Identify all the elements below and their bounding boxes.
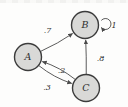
edge-label-A-C: .3 <box>43 83 51 92</box>
diagram-svg: .71.8.2.3ABC <box>0 0 128 107</box>
edge-label-C-B: .8 <box>97 54 105 63</box>
node-label-B: B <box>81 19 89 30</box>
state-diagram-figure: .71.8.2.3ABC <box>0 0 128 107</box>
node-label-C: C <box>82 82 90 93</box>
edge-label-A-B: .7 <box>44 26 53 35</box>
edge-label-B-B: 1 <box>111 21 116 30</box>
edge-label-C-A: .2 <box>58 66 66 75</box>
edge-A-B <box>41 34 73 52</box>
edge-B-B <box>101 19 111 30</box>
node-label-A: A <box>24 51 32 62</box>
edge-C-B <box>86 40 87 74</box>
edge-A-C <box>39 66 72 84</box>
